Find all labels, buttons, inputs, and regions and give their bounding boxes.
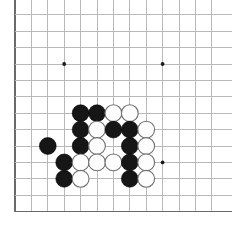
white-stone-h9[interactable] [138, 121, 155, 138]
white-stone-d12[interactable] [72, 170, 89, 187]
white-stone-body[interactable] [138, 170, 155, 187]
black-stone-body[interactable] [121, 138, 138, 155]
black-stone-body[interactable] [56, 154, 73, 171]
black-stone-b10[interactable] [39, 138, 56, 155]
black-stone-d9[interactable] [72, 121, 89, 138]
black-stone-g11[interactable] [121, 154, 138, 171]
black-stone-body[interactable] [39, 138, 56, 155]
black-stone-c12[interactable] [56, 170, 73, 187]
black-stone-body[interactable] [72, 121, 89, 138]
white-stone-e10[interactable] [89, 138, 106, 155]
white-stone-body[interactable] [89, 121, 106, 138]
black-stone-body[interactable] [56, 170, 73, 187]
white-stone-e11[interactable] [89, 154, 106, 171]
black-stone-f9[interactable] [105, 121, 122, 138]
white-stone-h12[interactable] [138, 170, 155, 187]
black-stone-body[interactable] [72, 105, 89, 122]
white-stone-g8[interactable] [121, 105, 138, 122]
white-stone-body[interactable] [105, 105, 122, 122]
black-stone-body[interactable] [72, 138, 89, 155]
black-stone-g9[interactable] [121, 121, 138, 138]
star-point-star-9-11 [161, 161, 165, 165]
white-stone-body[interactable] [105, 154, 122, 171]
black-stone-d8[interactable] [72, 105, 89, 122]
black-stone-g12[interactable] [121, 170, 138, 187]
white-stone-body[interactable] [89, 154, 106, 171]
white-stone-h11[interactable] [138, 154, 155, 171]
white-stone-body[interactable] [138, 138, 155, 155]
go-board[interactable] [0, 0, 232, 234]
black-stone-body[interactable] [89, 105, 106, 122]
white-stone-body[interactable] [138, 121, 155, 138]
black-stone-body[interactable] [121, 154, 138, 171]
black-stone-c11[interactable] [56, 154, 73, 171]
white-stone-body[interactable] [138, 154, 155, 171]
star-point-star-9-5 [161, 62, 165, 66]
star-point-star-3-5 [62, 62, 66, 66]
black-stone-body[interactable] [121, 170, 138, 187]
black-stone-g10[interactable] [121, 138, 138, 155]
white-stone-e9[interactable] [89, 121, 106, 138]
go-board-container [0, 0, 232, 234]
white-stone-body[interactable] [72, 154, 89, 171]
white-stone-h10[interactable] [138, 138, 155, 155]
black-stone-body[interactable] [121, 121, 138, 138]
white-stone-f8[interactable] [105, 105, 122, 122]
black-stone-e8[interactable] [89, 105, 106, 122]
black-stone-body[interactable] [105, 121, 122, 138]
white-stone-body[interactable] [89, 138, 106, 155]
white-stone-d11[interactable] [72, 154, 89, 171]
white-stone-body[interactable] [72, 170, 89, 187]
white-stone-f11[interactable] [105, 154, 122, 171]
white-stone-body[interactable] [121, 105, 138, 122]
black-stone-d10[interactable] [72, 138, 89, 155]
